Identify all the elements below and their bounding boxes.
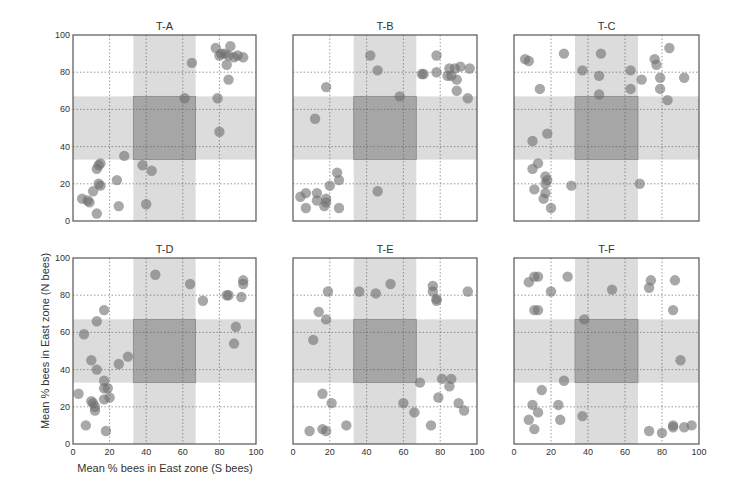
data-point [114, 201, 124, 211]
y-tick-label: 40 [60, 365, 70, 375]
panel-title: T-F [598, 243, 615, 255]
data-point [119, 151, 129, 161]
data-point [635, 179, 645, 189]
data-point [636, 74, 646, 84]
data-point [644, 283, 654, 293]
data-point [323, 286, 333, 296]
data-point [535, 84, 545, 94]
x-tick-label: 40 [141, 447, 151, 457]
data-point [222, 60, 232, 70]
y-tick-label: 100 [55, 30, 70, 40]
panel-t-f: T-F020406080100 [511, 243, 706, 457]
data-point [310, 114, 320, 124]
data-point [559, 48, 569, 58]
data-point [433, 392, 443, 402]
data-point [95, 158, 105, 168]
data-point [452, 86, 462, 96]
y-tick-label: 20 [60, 179, 70, 189]
data-point [533, 305, 543, 315]
data-point [431, 296, 441, 306]
data-point [444, 381, 454, 391]
data-point [341, 420, 351, 430]
data-point [95, 180, 105, 190]
data-point [92, 208, 102, 218]
data-point [229, 338, 239, 348]
data-point [334, 175, 344, 185]
data-point [533, 158, 543, 168]
data-point [463, 286, 473, 296]
data-point [679, 73, 689, 83]
data-point [670, 275, 680, 285]
data-point [79, 329, 89, 339]
x-tick-label: 100 [248, 447, 263, 457]
panel-title: T-E [376, 243, 393, 255]
data-point [137, 160, 147, 170]
data-point [372, 186, 382, 196]
data-point [577, 411, 587, 421]
data-point [114, 359, 124, 369]
x-tick-label: 60 [398, 447, 408, 457]
data-point [577, 65, 587, 75]
data-point [651, 60, 661, 70]
data-point [223, 74, 233, 84]
center-square [354, 319, 417, 382]
data-point [365, 50, 375, 60]
data-point [415, 377, 425, 387]
y-tick-label: 60 [60, 104, 70, 114]
y-tick-label: 40 [60, 142, 70, 152]
data-point [594, 71, 604, 81]
data-point [84, 197, 94, 207]
data-point [540, 179, 550, 189]
data-point [325, 180, 335, 190]
data-point [123, 351, 133, 361]
x-tick-label: 0 [290, 447, 295, 457]
data-point [371, 288, 381, 298]
data-point [99, 305, 109, 315]
data-point [524, 415, 534, 425]
y-tick-label: 20 [60, 402, 70, 412]
y-tick-label: 80 [60, 67, 70, 77]
data-point [533, 407, 543, 417]
panel-title: T-D [156, 243, 174, 255]
panel-t-c: T-C [514, 20, 699, 221]
data-point [81, 420, 91, 430]
data-point [372, 65, 382, 75]
data-point [664, 43, 674, 53]
data-point [562, 271, 572, 281]
data-point [141, 199, 151, 209]
x-tick-label: 80 [657, 447, 667, 457]
data-point [398, 398, 408, 408]
data-point [314, 307, 324, 317]
data-point [301, 188, 311, 198]
data-point [321, 314, 331, 324]
x-tick-label: 80 [214, 447, 224, 457]
data-point [455, 61, 465, 71]
data-point [579, 314, 589, 324]
data-point [657, 428, 667, 438]
center-square [133, 96, 195, 159]
data-point [99, 394, 109, 404]
data-point [555, 415, 565, 425]
center-square [354, 96, 417, 159]
data-point [431, 67, 441, 77]
data-point [625, 84, 635, 94]
data-point [187, 58, 197, 68]
x-tick-label: 60 [620, 447, 630, 457]
data-point [103, 383, 113, 393]
data-point [301, 203, 311, 213]
data-point [326, 398, 336, 408]
x-tick-label: 20 [325, 447, 335, 457]
data-point [418, 69, 428, 79]
data-point [223, 290, 233, 300]
data-point [533, 271, 543, 281]
data-point [321, 426, 331, 436]
data-point [546, 286, 556, 296]
data-point [538, 193, 548, 203]
data-point [225, 41, 235, 51]
center-square [133, 319, 195, 382]
panel-t-e: T-E020406080100 [290, 243, 484, 457]
data-point [304, 426, 314, 436]
data-point [655, 73, 665, 83]
data-point [308, 335, 318, 345]
y-axis-label: Mean % bees in East zone (N bees) [39, 253, 51, 429]
